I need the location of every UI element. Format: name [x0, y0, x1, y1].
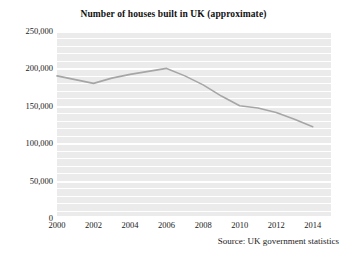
- x-tick-label: 2004: [122, 220, 139, 230]
- y-tick-label: 100,000: [0, 138, 53, 148]
- x-axis: 20002002200420062008201020122014: [57, 220, 331, 234]
- x-tick-label: 2008: [195, 220, 212, 230]
- y-tick-label: 150,000: [0, 101, 53, 111]
- x-tick-label: 2002: [85, 220, 102, 230]
- x-tick-label: 2014: [304, 220, 321, 230]
- y-tick-label: 50,000: [0, 176, 53, 186]
- chart-figure: Number of houses built in UK (approximat…: [0, 0, 347, 262]
- y-tick-label: 0: [0, 213, 53, 223]
- plot-area: [57, 31, 331, 218]
- chart-title: Number of houses built in UK (approximat…: [0, 9, 347, 19]
- series-line: [57, 68, 313, 126]
- x-tick-label: 2006: [158, 220, 175, 230]
- y-tick-label: 200,000: [0, 63, 53, 73]
- x-tick-label: 2000: [49, 220, 66, 230]
- source-caption: Source: UK government statistics: [218, 236, 339, 246]
- y-tick-label: 250,000: [0, 26, 53, 36]
- y-axis: 050,000100,000150,000200,000250,000: [0, 31, 53, 218]
- x-tick-label: 2012: [268, 220, 285, 230]
- x-tick-label: 2010: [231, 220, 248, 230]
- series-line-chart: [57, 31, 331, 218]
